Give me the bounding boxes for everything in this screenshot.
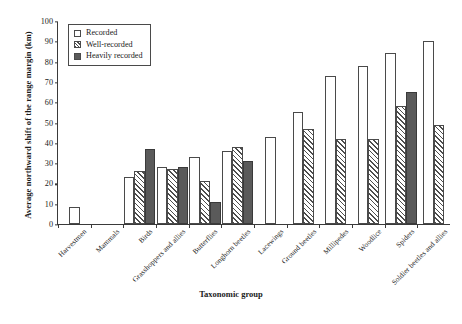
bar[interactable] — [303, 129, 314, 224]
x-tick-label: Soldier beetles and allies — [389, 227, 449, 287]
x-tick-label: Harvestmen — [57, 227, 89, 259]
bar[interactable] — [145, 149, 156, 224]
bar[interactable] — [325, 76, 336, 224]
bar[interactable] — [157, 167, 168, 224]
x-tick-label: Lacewings — [256, 227, 285, 256]
bar[interactable] — [189, 157, 200, 224]
bar[interactable] — [222, 151, 233, 224]
y-tick-label: 20 — [12, 180, 58, 188]
legend-swatch-icon — [74, 53, 81, 60]
legend-swatch-icon — [74, 30, 81, 37]
chart-legend: RecordedWell-recordedHeavily recorded — [68, 24, 151, 66]
bar-group — [287, 22, 320, 224]
x-tick-label: Butterflies — [191, 227, 220, 256]
bar[interactable] — [210, 202, 221, 224]
bar-group — [189, 22, 222, 224]
bar-group — [254, 22, 287, 224]
legend-item[interactable]: Heavily recorded — [74, 52, 143, 60]
legend-item[interactable]: Recorded — [74, 29, 143, 37]
x-tick-label: Birds — [136, 227, 154, 245]
bar-group — [417, 22, 450, 224]
bar-group — [221, 22, 254, 224]
bar[interactable] — [167, 169, 178, 224]
bar-group — [385, 22, 418, 224]
x-tick-label: Woodlice — [357, 227, 384, 254]
x-tick-label: Spiders — [394, 227, 416, 249]
bar[interactable] — [232, 147, 243, 224]
bar[interactable] — [423, 41, 434, 224]
y-tick-label: 0 — [12, 221, 58, 229]
bar-group — [319, 22, 352, 224]
legend-swatch-icon — [74, 41, 81, 48]
legend-item[interactable]: Well-recorded — [74, 41, 143, 49]
y-tick-label: 90 — [12, 38, 58, 46]
x-tick-label: Millipedes — [322, 227, 351, 256]
bar[interactable] — [396, 106, 407, 224]
bar-group — [352, 22, 385, 224]
bar-group — [156, 22, 189, 224]
bar[interactable] — [434, 125, 445, 224]
y-tick-label: 60 — [12, 99, 58, 107]
legend-label: Recorded — [86, 29, 117, 37]
bar[interactable] — [385, 53, 396, 224]
bar[interactable] — [336, 139, 347, 224]
y-tick-label: 80 — [12, 58, 58, 66]
bar[interactable] — [265, 137, 276, 224]
y-tick-label: 10 — [12, 201, 58, 209]
legend-label: Well-recorded — [86, 41, 133, 49]
bar[interactable] — [124, 177, 135, 224]
y-tick-label: 50 — [12, 119, 58, 127]
bar[interactable] — [293, 112, 304, 224]
bar[interactable] — [134, 171, 145, 224]
y-tick-label: 70 — [12, 79, 58, 87]
bar[interactable] — [358, 66, 369, 224]
y-tick-label: 100 — [12, 18, 58, 26]
x-tick-label: Mammals — [94, 227, 121, 254]
x-axis-tick-labels: HarvestmenMammalsBirdsGrasshoppers and a… — [57, 227, 450, 297]
bar[interactable] — [200, 181, 211, 224]
bar[interactable] — [178, 167, 189, 224]
bar[interactable] — [368, 139, 379, 224]
y-tick-label: 30 — [12, 160, 58, 168]
bar-chart: Average northward shift of the range mar… — [0, 0, 462, 324]
legend-label: Heavily recorded — [86, 52, 143, 60]
bar[interactable] — [406, 92, 417, 224]
x-axis-title: Taxonomic group — [0, 289, 462, 299]
bar[interactable] — [243, 161, 254, 224]
bar[interactable] — [69, 207, 80, 224]
y-tick-label: 40 — [12, 140, 58, 148]
